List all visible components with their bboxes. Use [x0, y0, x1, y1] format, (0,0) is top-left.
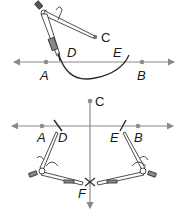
point-c-2	[88, 99, 93, 104]
label-f: F	[78, 186, 87, 201]
label-a: A	[39, 68, 49, 83]
figure-2: A D E B C F	[12, 94, 173, 208]
label-d-2: D	[58, 130, 67, 145]
point-a	[44, 60, 49, 65]
right-compass-icon	[97, 132, 156, 185]
label-b: B	[137, 68, 146, 83]
label-a-2: A	[36, 130, 46, 145]
compass-icon	[35, 1, 95, 61]
label-e: E	[113, 45, 122, 60]
label-c: C	[101, 30, 110, 45]
label-d: D	[67, 45, 76, 60]
label-c-2: C	[95, 94, 104, 109]
point-a-2	[40, 124, 45, 129]
label-e-2: E	[110, 130, 119, 145]
construction-diagram: A B C D E	[0, 0, 191, 214]
label-b-2: B	[134, 130, 143, 145]
point-b	[140, 60, 145, 65]
figure-1: A B C D E	[14, 1, 174, 83]
point-b-2	[136, 124, 141, 129]
